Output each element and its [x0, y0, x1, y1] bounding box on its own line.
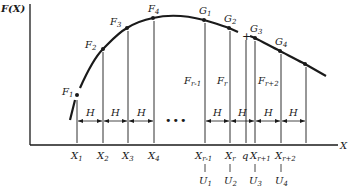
svg-text:H: H	[263, 107, 273, 118]
u-connectors	[205, 164, 281, 172]
svg-text:Fr+2: Fr+2	[257, 75, 279, 88]
svg-text:G2: G2	[224, 13, 237, 26]
value-labels: Fr-1 Fr Fr+2	[183, 75, 279, 88]
svg-text:U4: U4	[275, 175, 288, 188]
svg-text:H: H	[110, 107, 120, 118]
y-axis-label: F(X)	[0, 3, 26, 14]
svg-text:G1: G1	[199, 5, 211, 18]
svg-text:F4: F4	[147, 3, 159, 16]
svg-text:F1: F1	[61, 86, 73, 99]
svg-text:q: q	[242, 150, 248, 161]
interval-labels: H H H H H H H	[85, 107, 298, 118]
svg-text:Fr-1: Fr-1	[183, 75, 201, 88]
svg-text:Fr: Fr	[216, 75, 228, 88]
svg-text:U2: U2	[224, 175, 237, 188]
svg-text:H: H	[136, 107, 146, 118]
function-curve-tail	[250, 36, 326, 76]
svg-text:G4: G4	[275, 36, 287, 49]
svg-text:F3: F3	[109, 16, 122, 29]
svg-text:H: H	[288, 107, 298, 118]
svg-text:X2: X2	[96, 150, 109, 163]
svg-text:X3: X3	[121, 150, 134, 163]
x-tick-labels: X1 X2 X3 X4 Xr-1 Xr q Xr+1 Xr+2	[70, 150, 296, 163]
u-labels: U1 U2 U3 U4	[199, 175, 288, 188]
svg-text:Xr+1: Xr+1	[249, 150, 271, 163]
svg-text:U3: U3	[249, 175, 262, 188]
svg-text:Xr-1: Xr-1	[194, 150, 212, 163]
function-curve	[70, 100, 75, 120]
svg-text:X4: X4	[147, 150, 160, 163]
svg-text:G3: G3	[250, 23, 263, 36]
svg-text:Xr+2: Xr+2	[274, 150, 296, 163]
svg-text:H: H	[212, 107, 222, 118]
function-curve-main	[80, 16, 238, 88]
x-axis-label: X	[339, 140, 348, 151]
svg-text:F2: F2	[84, 39, 97, 52]
curve-point-labels: F1 F2 F3 F4 G1 G2 G3 G4	[61, 3, 287, 99]
svg-text:U1: U1	[199, 175, 212, 188]
svg-text:H: H	[85, 107, 95, 118]
ellipsis: •••	[165, 114, 187, 127]
svg-text:Xr: Xr	[224, 150, 236, 163]
svg-text:X1: X1	[70, 150, 83, 163]
interpolation-diagram: + H H H H H H H ••• F(X) X F1 F2 F3 F4 G…	[0, 0, 350, 190]
svg-text:H: H	[237, 107, 247, 118]
